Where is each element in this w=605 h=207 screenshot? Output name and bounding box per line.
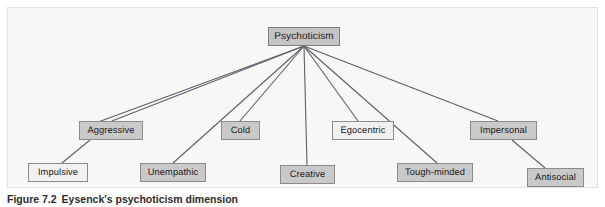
node-egocentric[interactable]: Egocentric (332, 121, 394, 140)
figure-root: Psychoticism AggressiveColdEgocentricImp… (0, 0, 605, 207)
node-antisocial[interactable]: Antisocial (527, 168, 584, 187)
node-aggressive[interactable]: Aggressive (79, 121, 143, 140)
node-cold[interactable]: Cold (221, 121, 260, 140)
node-label: Tough-minded (405, 168, 465, 177)
node-label: Impersonal (480, 126, 527, 135)
node-psychoticism[interactable]: Psychoticism (268, 27, 340, 46)
figure-caption: Figure 7.2Eysenck's psychoticism dimensi… (7, 192, 567, 207)
node-label: Creative (290, 170, 325, 179)
node-label: Psychoticism (274, 32, 334, 42)
node-unempathic[interactable]: Unempathic (140, 163, 206, 182)
caption-number: Figure 7.2 (7, 193, 57, 205)
node-impersonal[interactable]: Impersonal (470, 121, 537, 140)
node-impulsive[interactable]: Impulsive (28, 163, 88, 182)
node-label: Aggressive (88, 126, 135, 135)
node-creative[interactable]: Creative (280, 165, 335, 184)
node-label: Unempathic (148, 168, 199, 177)
caption-text: Eysenck's psychoticism dimension (62, 193, 238, 205)
node-label: Egocentric (341, 126, 386, 135)
node-label: Impulsive (38, 168, 78, 177)
node-label: Antisocial (535, 173, 576, 182)
node-label: Cold (231, 126, 251, 135)
node-tough-minded[interactable]: Tough-minded (397, 163, 473, 182)
